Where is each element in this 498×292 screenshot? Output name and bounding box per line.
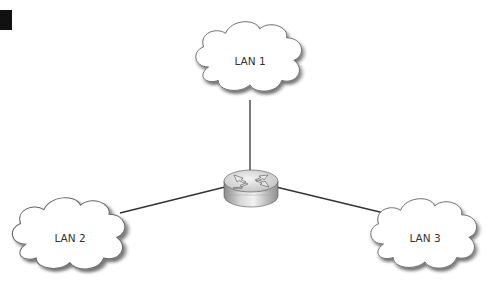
edge-router-lan2 [120,187,225,213]
router-top [224,170,278,192]
network-diagram: LAN 1 LAN 2 LAN 3 [0,0,498,292]
lan3-label: LAN 3 [409,232,440,244]
router [224,170,278,207]
lan1-label: LAN 1 [234,55,265,67]
edge-router-lan3 [276,187,384,213]
lan2-label: LAN 2 [54,232,85,244]
corner-marker [0,10,12,30]
